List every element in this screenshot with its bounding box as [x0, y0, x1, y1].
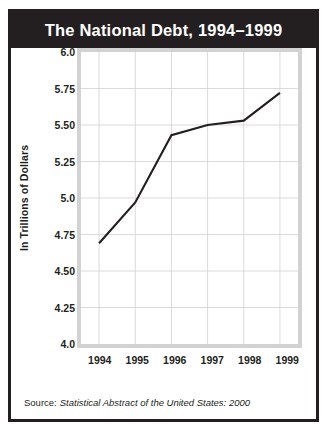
- y-axis-tick-label: 4.25: [35, 302, 75, 314]
- x-axis-tick-label: 1995: [126, 354, 149, 366]
- y-axis-tick-label: 6.0: [35, 46, 75, 58]
- page-title: The National Debt, 1994–1999: [45, 21, 283, 40]
- source-prefix: Source:: [24, 397, 57, 408]
- plot-frame: [77, 48, 302, 348]
- x-axis-tick-label: 1999: [276, 354, 299, 366]
- y-axis-title-label: In Trillions of Dollars: [18, 145, 30, 251]
- y-axis-tick-label: 5.50: [35, 119, 75, 131]
- y-axis-tick-label: 5.25: [35, 156, 75, 168]
- y-axis-tick-labels: 6.05.755.505.255.04.754.504.254.0: [35, 48, 75, 348]
- source-title: Statistical Abstract of the United State…: [60, 397, 250, 408]
- debt-line-series: [81, 52, 298, 344]
- y-axis-tick-label: 4.75: [35, 229, 75, 241]
- x-axis-tick-label: 1994: [88, 354, 111, 366]
- x-axis-tick-label: 1996: [163, 354, 186, 366]
- chart-figure: The National Debt, 1994–1999 In Trillion…: [8, 9, 319, 422]
- y-axis-tick-label: 4.50: [35, 265, 75, 277]
- y-axis-tick-label: 4.0: [35, 338, 75, 350]
- x-axis-tick-label: 1997: [201, 354, 224, 366]
- chart-body: In Trillions of Dollars 6.05.755.505.255…: [11, 48, 316, 387]
- plot-area: [81, 52, 298, 344]
- y-axis-title: In Trillions of Dollars: [13, 48, 35, 348]
- chart-title-banner: The National Debt, 1994–1999: [11, 12, 316, 48]
- y-axis-tick-label: 5.0: [35, 192, 75, 204]
- y-axis-tick-label: 5.75: [35, 83, 75, 95]
- x-axis-tick-labels: 199419951996199719981999: [77, 350, 302, 372]
- x-axis-tick-label: 1998: [238, 354, 261, 366]
- source-note: Source: Statistical Abstract of the Unit…: [11, 385, 316, 419]
